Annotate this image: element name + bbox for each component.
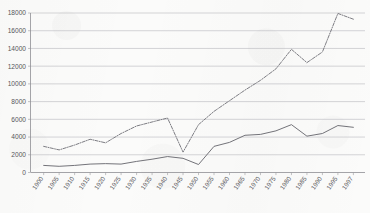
x-axis-tick-label: 1900: [31, 175, 45, 191]
x-axis-tick-marks: [44, 173, 354, 176]
x-axis-tick-label: 1920: [93, 175, 107, 191]
x-axis-tick-label: 1935: [139, 175, 153, 191]
x-axis-tick-label: 1955: [201, 175, 215, 191]
series-line-upper-dashed: [44, 13, 354, 152]
x-axis-tick-label: 1970: [247, 175, 261, 191]
y-axis-tick-label: 8000: [11, 98, 26, 105]
chart-canvas: 0200040006000800010000120001400016000180…: [0, 0, 370, 213]
x-axis-tick-label: 1997: [340, 175, 354, 191]
y-axis-tick-label: 10000: [8, 80, 27, 87]
y-axis-tick-label: 4000: [11, 133, 26, 140]
y-axis-tick-label: 0: [22, 169, 26, 176]
y-axis-tick-label: 12000: [8, 63, 27, 70]
x-axis-tick-label: 1910: [62, 175, 76, 191]
y-axis-tick-label: 18000: [8, 9, 27, 16]
y-axis-tick-labels: 0200040006000800010000120001400016000180…: [8, 9, 27, 176]
x-axis-tick-label: 1905: [46, 175, 60, 191]
gridlines-group: [28, 13, 365, 173]
x-axis-tick-label: 1930: [124, 175, 138, 191]
x-axis-tick-label: 1995: [325, 175, 339, 191]
y-axis-tick-label: 16000: [8, 27, 27, 34]
x-axis-tick-label: 1950: [185, 175, 199, 191]
x-axis-tick-label: 1915: [77, 175, 91, 191]
y-axis-tick-label: 6000: [11, 116, 26, 123]
y-axis-tick-label: 14000: [8, 45, 27, 52]
x-axis-tick-label: 1945: [170, 175, 184, 191]
x-axis-tick-label: 1980: [278, 175, 292, 191]
x-axis-tick-label: 1960: [216, 175, 230, 191]
y-axis-tick-label: 2000: [11, 151, 26, 158]
x-axis-tick-label: 1985: [294, 175, 308, 191]
x-axis-tick-label: 1990: [309, 175, 323, 191]
x-axis-tick-label: 1965: [232, 175, 246, 191]
x-axis-tick-labels: 1900190519101915192019251930193519401945…: [31, 175, 355, 191]
series-line-lower-solid: [44, 125, 354, 167]
x-axis-tick-label: 1925: [108, 175, 122, 191]
x-axis-tick-label: 1975: [263, 175, 277, 191]
line-chart: 0200040006000800010000120001400016000180…: [0, 0, 370, 213]
x-axis-tick-label: 1940: [154, 175, 168, 191]
